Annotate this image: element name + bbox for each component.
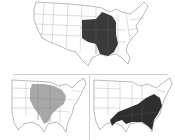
- horizontal-divider: [13, 74, 168, 75]
- us-map-east-left: [10, 76, 88, 140]
- map-panel-bottom-left: [10, 76, 88, 140]
- us-map-full: [30, 0, 150, 68]
- vertical-divider: [89, 75, 90, 140]
- map-panel-top: [30, 0, 150, 68]
- map-panel-bottom-right: [92, 76, 174, 140]
- us-map-east-right: [92, 76, 174, 140]
